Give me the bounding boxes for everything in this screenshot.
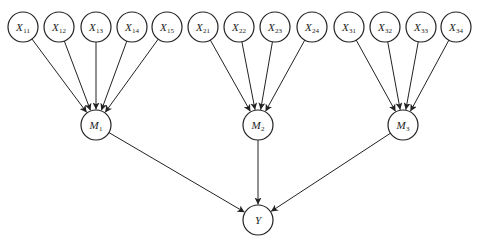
node-label-base: M (395, 119, 406, 131)
node-x21: X21 (188, 12, 218, 42)
node-x15: X15 (152, 12, 182, 42)
edge-x23-to-m2 (261, 42, 273, 110)
node-label-subscript: 23 (275, 27, 283, 35)
node-label-base: M (88, 119, 99, 131)
node-x12: X12 (44, 12, 74, 42)
edge-m3-to-y (271, 133, 390, 211)
node-label-subscript: 14 (132, 27, 140, 35)
node-label-subscript: 15 (167, 27, 175, 35)
nodes-layer: X11X12X13X14X15X21X22X23X24X31X32X33X34M… (8, 12, 471, 235)
node-x24: X24 (297, 12, 327, 42)
node-label-subscript: 13 (96, 27, 104, 35)
node-label-subscript: 24 (312, 27, 320, 35)
node-label-subscript: 22 (239, 27, 247, 35)
node-label-subscript: 33 (421, 27, 429, 35)
node-x11: X11 (8, 12, 38, 42)
edge-x21-to-m2 (210, 40, 250, 111)
node-label-subscript: 34 (456, 27, 464, 35)
node-label-subscript: 3 (406, 125, 410, 133)
node-label-subscript: 1 (99, 125, 103, 133)
node-x33: X33 (406, 12, 436, 42)
node-label-subscript: 2 (261, 125, 265, 133)
node-m2: M2 (243, 110, 273, 140)
causal-diagram: X11X12X13X14X15X21X22X23X24X31X32X33X34M… (0, 0, 478, 244)
node-x31: X31 (334, 12, 364, 42)
node-x32: X32 (370, 12, 400, 42)
node-label-subscript: 12 (59, 27, 67, 35)
node-label-subscript: 11 (23, 27, 30, 35)
node-label-subscript: 21 (203, 27, 211, 35)
node-x13: X13 (81, 12, 111, 42)
edge-x15-to-m1 (105, 39, 158, 112)
node-label-base: M (250, 119, 261, 131)
edge-x32-to-m3 (388, 42, 400, 110)
node-label-subscript: 31 (349, 27, 357, 35)
node-x23: X23 (260, 12, 290, 42)
node-y: Y (243, 205, 273, 235)
edge-m1-to-y (109, 133, 245, 213)
node-x34: X34 (441, 12, 471, 42)
node-m1: M1 (81, 110, 111, 140)
edge-x11-to-m1 (32, 39, 87, 113)
node-x14: X14 (117, 12, 147, 42)
node-x22: X22 (224, 12, 254, 42)
node-m3: M3 (388, 110, 418, 140)
node-label-subscript: 32 (385, 27, 393, 35)
